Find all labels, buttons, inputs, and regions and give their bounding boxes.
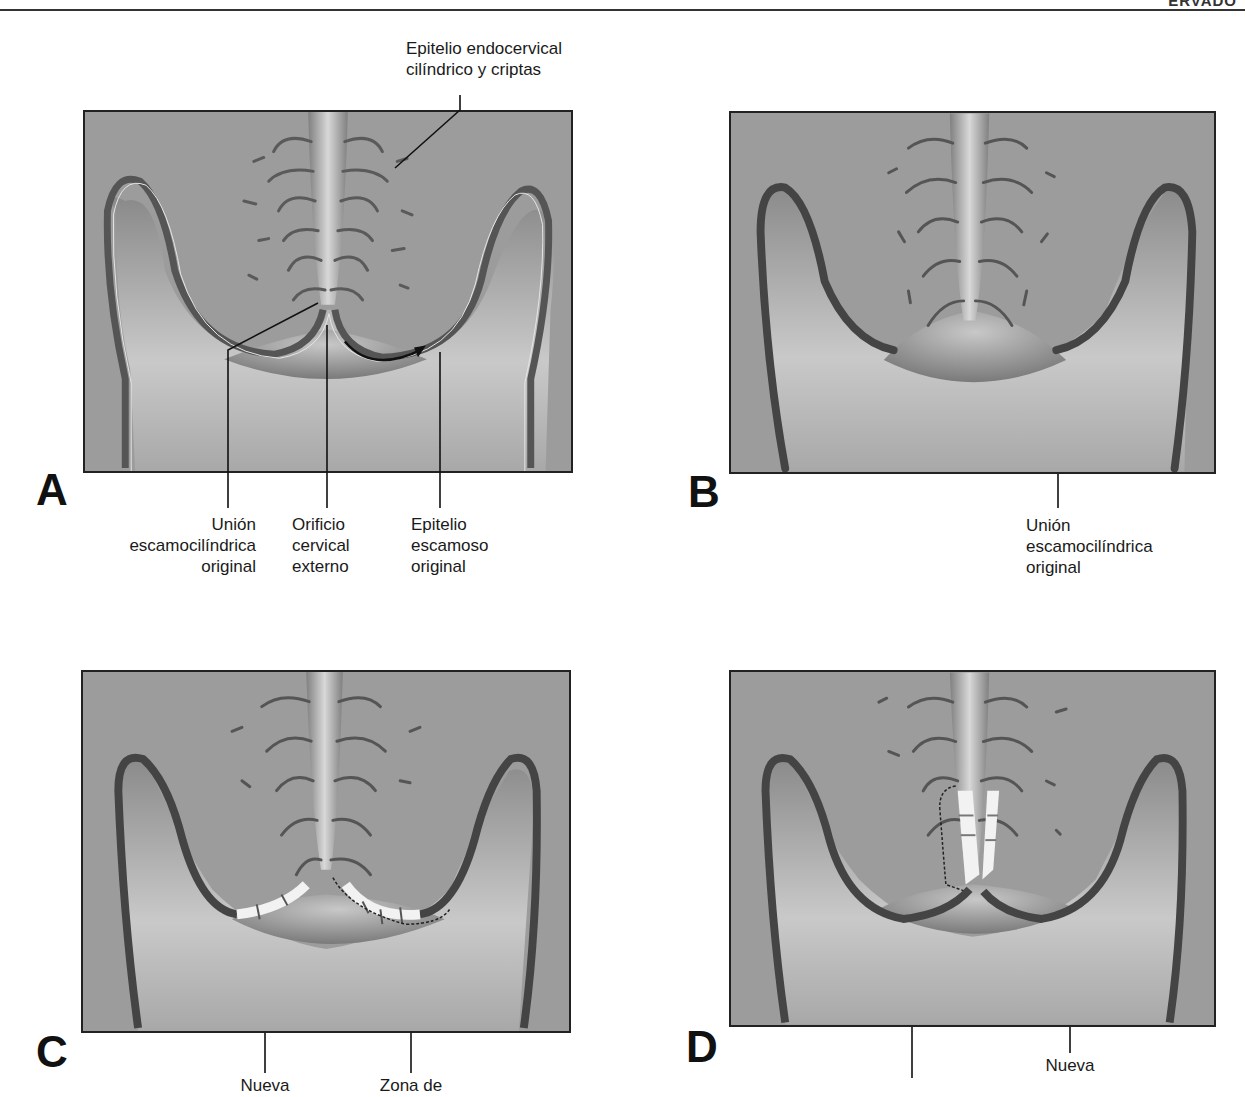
panel-label-c: C [36,1030,68,1074]
label-line: original [411,556,488,577]
cervix-illustration-a [85,112,571,471]
label-line: Nueva [1030,1055,1110,1076]
label-line: escamocilíndrica [120,535,256,556]
panel-b-illustration [729,111,1216,474]
cervix-illustration-b [731,113,1214,472]
panel-d-illustration [729,670,1216,1027]
label-line: Epitelio [411,514,488,535]
running-header: ERVADO [1168,0,1237,9]
label-line: original [1026,557,1153,578]
label-line: Unión [120,514,256,535]
label-epitelio-endocervical: Epitelio endocervical cilíndrico y cript… [406,38,562,80]
top-rule [0,9,1245,11]
label-line: escamocilíndrica [1026,536,1153,557]
panel-a-illustration [83,110,573,473]
label-nueva-c: Nueva [225,1075,305,1096]
label-line: Nueva [225,1075,305,1096]
panel-label-d: D [686,1025,718,1069]
label-line: cilíndrico y criptas [406,59,562,80]
panel-label-a: A [36,468,68,512]
label-line: original [120,556,256,577]
label-union-b: Unión escamocilíndrica original [1026,515,1153,578]
panel-c-illustration [81,670,571,1033]
label-line: Zona de [368,1075,454,1096]
label-zona-de: Zona de [368,1075,454,1096]
label-line: Epitelio endocervical [406,38,562,59]
cervix-illustration-c [83,672,569,1031]
label-orificio-cervical: Orificio cervical externo [292,514,350,577]
panel-label-b: B [688,470,720,514]
cervix-illustration-d [731,672,1214,1025]
label-line: Orificio [292,514,350,535]
label-epitelio-escamoso: Epitelio escamoso original [411,514,488,577]
label-line: cervical [292,535,350,556]
label-line: Unión [1026,515,1153,536]
label-line: escamoso [411,535,488,556]
label-nueva-d: Nueva [1030,1055,1110,1076]
label-line: externo [292,556,350,577]
label-union-a: Unión escamocilíndrica original [120,514,256,577]
